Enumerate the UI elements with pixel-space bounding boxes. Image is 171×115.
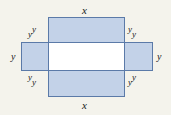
overlap-region	[49, 43, 124, 70]
label-yy-top-right: yy	[128, 28, 136, 37]
label-y-left: y	[11, 52, 15, 62]
geometry-figure: x x y y yy yy yy yy	[0, 0, 171, 115]
label-yy-bottom-right: yy	[128, 76, 136, 85]
label-yy-bottom-right-second: y	[132, 72, 136, 82]
label-yy-bottom-left: yy	[28, 76, 36, 85]
label-yy-bottom-left-second: y	[32, 77, 36, 87]
label-yy-top-left: yy	[28, 28, 36, 37]
vertical-rectangle-right-edge	[124, 43, 125, 70]
vertical-rectangle-left-edge	[48, 43, 49, 70]
label-yy-top-left-second: y	[32, 24, 36, 34]
label-x-bottom: x	[82, 100, 87, 111]
label-x-top: x	[82, 5, 87, 16]
label-y-right: y	[157, 52, 161, 62]
label-yy-top-right-second: y	[132, 29, 136, 39]
